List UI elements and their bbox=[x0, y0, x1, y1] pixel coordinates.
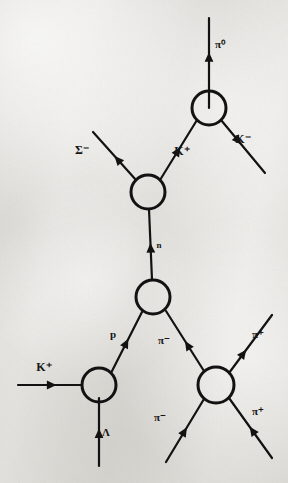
k-minus-outgoing-label: K⁻ bbox=[235, 132, 250, 146]
pion-blob bbox=[198, 367, 234, 403]
k-plus-incoming-arrowhead-icon bbox=[47, 381, 57, 390]
particle-interaction-diagram: π⁰K⁻K⁺Σ⁻npπ⁻K⁺Λπ⁺π⁻π⁺ bbox=[0, 0, 288, 483]
lines-layer bbox=[18, 18, 272, 466]
pi-minus-incoming-lower-label: π⁻ bbox=[154, 411, 166, 423]
pi-plus-outgoing-upper-line bbox=[229, 315, 272, 373]
proton-internal-label: p bbox=[110, 328, 116, 340]
neutron-internal-label: n bbox=[156, 240, 161, 250]
pi-plus-outgoing-lower-label: π⁺ bbox=[252, 405, 264, 417]
sigma-blob bbox=[131, 175, 165, 209]
pi-minus-internal-label: π⁻ bbox=[158, 334, 170, 346]
figure-root: π⁰K⁻K⁺Σ⁻npπ⁻K⁺Λπ⁺π⁻π⁺ bbox=[0, 0, 288, 483]
sigma-minus-outgoing-label: Σ⁻ bbox=[75, 143, 89, 157]
neutron-internal-arrowhead-icon bbox=[146, 243, 155, 253]
k-minus-outgoing-line bbox=[221, 120, 265, 173]
pi-zero-outgoing-label: π⁰ bbox=[215, 38, 226, 50]
pi-plus-outgoing-upper-label: π⁺ bbox=[252, 328, 264, 340]
pi-zero-outgoing-arrowhead-icon bbox=[205, 52, 214, 62]
k-plus-incoming-label: K⁺ bbox=[36, 360, 51, 374]
pi-plus-outgoing-lower-arrowhead-icon bbox=[250, 427, 259, 437]
middle-blob bbox=[136, 280, 170, 314]
k-plus-internal-label: K⁺ bbox=[174, 144, 189, 158]
lambda-incoming-label: Λ bbox=[102, 426, 110, 438]
